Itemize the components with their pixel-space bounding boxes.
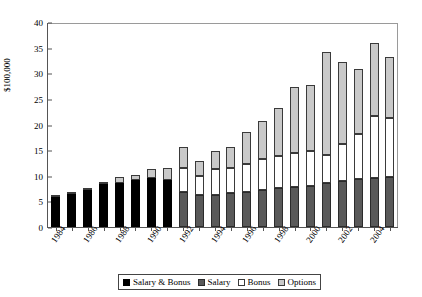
bar-segment [211,195,220,227]
legend-label: Salary [208,277,231,287]
bar-segment [179,192,188,227]
bar-1984[interactable] [51,195,60,227]
bar-segment [115,183,124,227]
bar-segment [67,194,76,227]
legend-item[interactable]: Options [278,277,317,287]
bar-2000[interactable] [306,85,315,227]
x-label-slot: 1999 [286,230,302,274]
bar-segment [147,178,156,227]
bar-1991[interactable] [163,168,172,227]
x-label-slot: 1992 [175,230,191,274]
bar-segment [99,184,108,227]
x-label-slot: 1998 [270,230,286,274]
bar-slot [128,23,144,227]
y-tick-label: 5 [39,198,49,207]
bar-segment [274,108,283,156]
y-tick-label: 20 [34,121,48,130]
bar-slot [318,23,334,227]
bar-2001[interactable] [322,52,331,227]
x-label-slot: 2005 [382,230,398,274]
x-label-slot: 1991 [159,230,175,274]
bar-segment [370,43,379,116]
bar-slot [112,23,128,227]
legend-item[interactable]: Salary [198,277,231,287]
bar-slot [64,23,80,227]
bar-1992[interactable] [179,147,188,227]
x-label-slot: 1988 [111,230,127,274]
bar-2004[interactable] [370,43,379,227]
x-label-slot: 1995 [222,230,238,274]
bar-segment [290,153,299,187]
bar-segment [131,180,140,227]
x-label-slot: 2004 [366,230,382,274]
bar-segment [242,192,251,227]
legend-swatch-icon [123,279,130,286]
bar-group [48,23,398,227]
plot-area: 0510152025303540 [47,23,398,228]
bar-segment [163,168,172,180]
legend-item[interactable]: Bonus [238,277,271,287]
bar-slot [303,23,319,227]
y-axis-title: $100,000 [2,58,12,92]
bar-segment [242,164,251,191]
bar-segment [147,169,156,178]
bar-1990[interactable] [147,169,156,227]
bar-segment [322,52,331,155]
bar-1998[interactable] [274,108,283,227]
bar-1999[interactable] [290,87,299,227]
bar-segment [338,181,347,227]
bar-segment [354,179,363,227]
x-label-slot: 1984 [47,230,63,274]
y-tick-label: 10 [34,172,48,181]
bar-slot [143,23,159,227]
bar-1986[interactable] [83,188,92,227]
bar-2005[interactable] [385,57,394,227]
x-label-slot: 1993 [191,230,207,274]
bar-slot [191,23,207,227]
bar-segment [226,193,235,227]
bar-segment [195,195,204,227]
x-label-slot: 1994 [207,230,223,274]
bar-slot [207,23,223,227]
legend-label: Options [288,277,317,287]
bar-1993[interactable] [195,161,204,227]
bar-segment [290,87,299,153]
bar-segment [211,169,220,195]
bar-segment [322,183,331,227]
bar-segment [179,168,188,192]
bar-segment [370,178,379,227]
bar-segment [226,147,235,169]
bar-segment [274,188,283,227]
bar-segment [338,62,347,144]
bar-segment [354,134,363,179]
bar-slot [287,23,303,227]
bar-segment [290,187,299,227]
bar-1996[interactable] [242,132,251,227]
bar-slot [48,23,64,227]
bar-segment [258,190,267,227]
bar-2003[interactable] [354,69,363,227]
bar-1985[interactable] [67,192,76,227]
bar-segment [195,176,204,194]
bar-slot [96,23,112,227]
legend-swatch-icon [198,279,205,286]
bar-2002[interactable] [338,62,347,227]
bar-1997[interactable] [258,121,267,227]
legend-item[interactable]: Salary & Bonus [123,277,191,287]
bar-1995[interactable] [226,147,235,227]
x-label-slot: 1986 [79,230,95,274]
bar-segment [306,151,315,185]
bar-1994[interactable] [211,151,220,227]
bar-segment [179,147,188,169]
bar-1989[interactable] [131,175,140,227]
y-tick-label: 40 [34,19,48,28]
x-label-slot: 1989 [127,230,143,274]
bar-slot [255,23,271,227]
legend-label: Salary & Bonus [133,277,191,287]
x-label-slot: 1985 [63,230,79,274]
bar-segment [306,186,315,228]
bar-1988[interactable] [115,177,124,227]
bar-segment [385,177,394,227]
bar-1987[interactable] [99,182,108,227]
y-tick-label: 25 [34,95,48,104]
